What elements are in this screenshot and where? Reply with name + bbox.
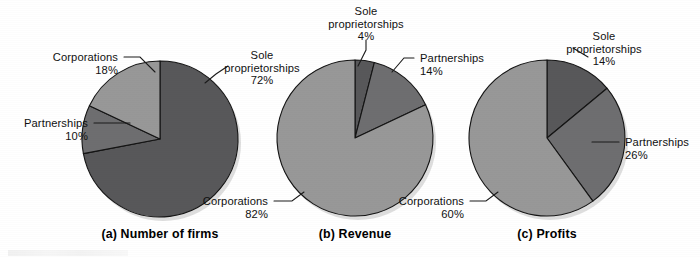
callout-label-c-sole-proprietorships: Soleproprietorships14% [566, 30, 642, 67]
chart-caption-a: (a) Number of firms [101, 227, 218, 241]
callout-label-a-partnerships: Partnerships10% [24, 117, 88, 142]
callout-label-b-sole-proprietorships: Soleproprietorships4% [328, 5, 404, 42]
callout-line: proprietorships [224, 62, 300, 74]
callout-label-a-sole-proprietorships: Soleproprietorships72% [224, 49, 300, 86]
callout-line: Sole [251, 49, 274, 61]
chart-captions-layer: (a) Number of firms(b) Revenue(c) Profit… [101, 227, 576, 241]
callout-line: 82% [245, 208, 268, 220]
callout-line: Partnerships [625, 136, 689, 148]
chart-caption-c: (c) Profits [517, 227, 576, 241]
callout-line: 18% [95, 64, 118, 76]
leader-line-b-partnerships [392, 58, 414, 72]
figure-root: Sole proprietorships 72%Partnerships 10%… [0, 0, 700, 257]
callout-line: Corporations [399, 195, 465, 207]
callout-line: Partnerships [24, 117, 88, 129]
pie-chart-figure: Sole proprietorships 72%Partnerships 10%… [0, 0, 700, 257]
callout-line: proprietorships [328, 18, 404, 30]
callout-line: Corporations [53, 51, 119, 63]
callout-line: 14% [420, 65, 443, 77]
chart-caption-b: (b) Revenue [319, 227, 392, 241]
callout-line: Corporations [203, 195, 269, 207]
callout-label-c-corporations: Corporations60% [399, 195, 465, 220]
callout-line: Partnerships [420, 52, 484, 64]
pie-slices-layer: Sole proprietorships 72%Partnerships 10%… [82, 60, 625, 217]
callout-line: 10% [65, 130, 88, 142]
callout-line: Sole [593, 30, 616, 42]
callout-line: proprietorships [566, 43, 642, 55]
callout-label-b-partnerships: Partnerships14% [420, 52, 484, 77]
callout-line: Sole [355, 5, 378, 17]
callout-line: 14% [593, 55, 616, 67]
callout-line: 4% [358, 30, 374, 42]
callout-label-b-corporations: Corporations82% [203, 195, 269, 220]
callout-line: 60% [441, 208, 464, 220]
callout-line: 72% [251, 74, 274, 86]
callout-label-a-corporations: Corporations18% [53, 51, 119, 76]
callout-line: 26% [625, 149, 648, 161]
callout-label-c-partnerships: Partnerships26% [625, 136, 689, 161]
